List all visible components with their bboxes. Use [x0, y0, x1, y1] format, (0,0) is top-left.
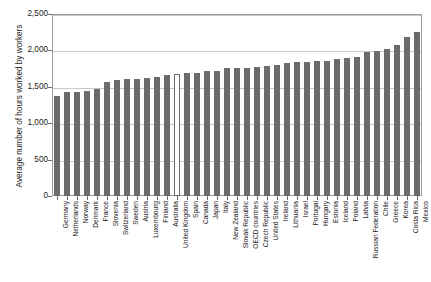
bar: [274, 65, 280, 196]
x-axis-tick-mark: [67, 196, 68, 200]
x-axis-tick-label: Norway: [81, 201, 90, 281]
bar: [134, 79, 140, 196]
x-axis-tick-mark: [97, 196, 98, 200]
x-axis-tick-label: New Zealand: [231, 201, 240, 281]
bar: [164, 75, 170, 197]
x-axis-tick-label: Chile: [381, 201, 390, 281]
x-axis-tick-label: Iceland: [341, 201, 350, 281]
y-axis-tick-label: 1,000: [16, 119, 48, 127]
x-axis-tick-mark: [267, 196, 268, 200]
bar: [174, 74, 180, 196]
x-axis-tick-label: Lithuania: [291, 201, 300, 281]
x-axis-tick-label: Germany: [61, 201, 70, 281]
bar-chart: Average number of hours worked by worker…: [0, 0, 431, 282]
x-axis-tick-mark: [257, 196, 258, 200]
x-axis-tick-mark: [147, 196, 148, 200]
bar: [124, 79, 130, 196]
y-axis-tick-label: 2,000: [16, 46, 48, 54]
bar: [234, 68, 240, 196]
x-axis-tick-mark: [307, 196, 308, 200]
x-axis-tick-mark: [207, 196, 208, 200]
x-axis-tick-mark: [337, 196, 338, 200]
x-axis-tick-mark: [107, 196, 108, 200]
y-axis-tick-mark: [48, 14, 52, 15]
x-axis-tick-mark: [377, 196, 378, 200]
x-axis-category-labels: GermanyNetherlandsNorwayDenmarkFranceSlo…: [52, 201, 422, 281]
x-axis-tick-label: Sweden: [131, 201, 140, 281]
bar: [414, 32, 420, 196]
y-axis-tick-mark: [48, 50, 52, 51]
x-axis-tick-mark: [237, 196, 238, 200]
x-axis-tick-mark: [227, 196, 228, 200]
bar: [304, 62, 310, 196]
x-axis-tick-mark: [187, 196, 188, 200]
x-axis-tick-label: Italy: [221, 201, 230, 281]
x-axis-tick-label: Czech Republic: [261, 201, 270, 281]
bar: [364, 52, 370, 196]
x-axis-tick-mark: [87, 196, 88, 200]
bar: [404, 37, 410, 196]
y-axis-tick-label: 1,500: [16, 83, 48, 91]
x-axis-tick-label: United States: [271, 201, 280, 281]
x-axis-tick-label: Portugal: [311, 201, 320, 281]
bar: [324, 61, 330, 196]
x-axis-tick-mark: [197, 196, 198, 200]
bar: [214, 71, 220, 196]
x-axis-tick-mark: [117, 196, 118, 200]
bar: [254, 67, 260, 196]
y-axis-tick-label: 500: [16, 156, 48, 164]
x-axis-tick-label: Slovak Republic: [241, 201, 250, 281]
y-axis-tick-label: 2,500: [16, 10, 48, 18]
x-axis-tick-mark: [247, 196, 248, 200]
x-axis-tick-mark: [57, 196, 58, 200]
x-axis-tick-mark: [347, 196, 348, 200]
y-axis-tick-mark: [48, 196, 52, 197]
x-axis-tick-mark: [157, 196, 158, 200]
x-axis-tick-label: Costa Rica: [411, 201, 420, 281]
x-axis-tick-label: Canada: [201, 201, 210, 281]
y-axis-tick-mark: [48, 160, 52, 161]
bar: [194, 73, 200, 196]
x-axis-tick-label: Japan: [211, 201, 220, 281]
bar: [64, 92, 70, 196]
x-axis-tick-mark: [277, 196, 278, 200]
x-axis-tick-mark: [397, 196, 398, 200]
y-axis-tick-mark: [48, 87, 52, 88]
bar: [74, 92, 80, 196]
x-axis-tick-label: Australia: [171, 201, 180, 281]
x-axis-tick-mark: [137, 196, 138, 200]
bar: [394, 45, 400, 196]
x-axis-tick-label: Denmark: [91, 201, 100, 281]
x-axis-tick-label: Ireland: [281, 201, 290, 281]
bar: [54, 96, 60, 196]
x-axis-tick-label: Netherlands: [71, 201, 80, 281]
x-axis-tick-mark: [77, 196, 78, 200]
bar: [284, 63, 290, 196]
bar: [144, 78, 150, 196]
bar: [104, 82, 110, 196]
x-axis-tick-label: Hungary: [321, 201, 330, 281]
x-axis-tick-label: Luxembourg: [151, 201, 160, 281]
x-axis-tick-label: Mexico: [421, 201, 430, 281]
bar: [314, 61, 320, 196]
x-axis-tick-mark: [387, 196, 388, 200]
x-axis-tick-mark: [357, 196, 358, 200]
bar: [344, 58, 350, 196]
bar: [354, 57, 360, 196]
bar: [334, 59, 340, 196]
x-axis-tick-label: United Kingdom: [181, 201, 190, 281]
x-axis-tick-label: Finland: [161, 201, 170, 281]
x-axis-tick-label: Estonia: [331, 201, 340, 281]
x-axis-tick-label: OECD countries: [251, 201, 260, 281]
x-axis-tick-marks: [52, 196, 422, 200]
y-axis-tick-label: 0: [16, 192, 48, 200]
x-axis-tick-mark: [127, 196, 128, 200]
bar: [114, 80, 120, 196]
x-axis-tick-label: Israel: [301, 201, 310, 281]
x-axis-tick-mark: [327, 196, 328, 200]
bar: [224, 68, 230, 196]
bar-series: [52, 14, 422, 196]
bar: [264, 66, 270, 196]
x-axis-tick-label: Switzerland: [121, 201, 130, 281]
x-axis-tick-mark: [417, 196, 418, 200]
